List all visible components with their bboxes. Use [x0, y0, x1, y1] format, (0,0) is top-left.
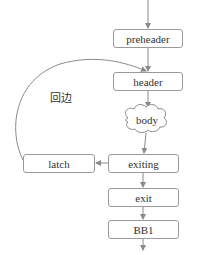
node-exiting: exiting — [108, 154, 179, 173]
node-body-label: body — [136, 114, 158, 126]
back-edge-label: 回边 — [50, 89, 72, 105]
edge-body-exiting — [144, 133, 146, 153]
node-preheader-label: preheader — [126, 33, 169, 45]
node-preheader: preheader — [113, 29, 183, 48]
node-header-label: header — [133, 76, 162, 88]
node-exiting-label: exiting — [128, 158, 159, 170]
node-exit-label: exit — [135, 192, 152, 204]
node-exit: exit — [108, 188, 179, 207]
node-latch-label: latch — [48, 158, 69, 170]
node-body: body — [126, 109, 168, 131]
node-header: header — [113, 72, 183, 91]
node-bb1: BB1 — [108, 220, 179, 239]
node-bb1-label: BB1 — [133, 224, 153, 236]
node-latch: latch — [23, 154, 95, 173]
